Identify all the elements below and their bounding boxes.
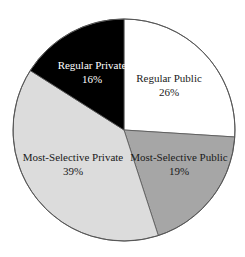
pie-slices xyxy=(13,19,235,241)
pie-chart: Regular Public26%Most-Selective Public19… xyxy=(0,0,245,257)
